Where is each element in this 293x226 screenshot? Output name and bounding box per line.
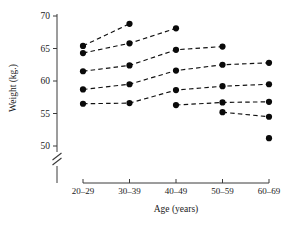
data-point [219,83,225,89]
data-point [266,114,272,120]
series-cohort-6 [173,99,272,108]
x-axis-tick-label: 20–29 [72,186,95,196]
data-point [80,86,86,92]
data-point [80,50,86,56]
series-cohort-2 [80,25,179,56]
data-series-group [80,21,272,142]
data-point [173,102,179,108]
data-point [80,101,86,107]
y-axis: 5055606570 [41,11,62,183]
x-axis-tick-label: 40–49 [165,186,188,196]
data-point [126,81,132,87]
data-point [266,81,272,87]
series-line [83,63,269,90]
data-point [266,60,272,66]
series-line [83,47,223,72]
data-point [126,21,132,27]
data-point [126,62,132,68]
x-axis: 20–2930–3940–4950–5960–69 [72,179,281,196]
y-axis-tick-label: 55 [41,109,51,119]
data-point [173,47,179,53]
series-line [223,112,270,117]
y-axis-tick-label: 60 [41,76,51,86]
chart-container: 5055606570 20–2930–3940–4950–5960–69 Wei… [0,0,293,226]
x-axis-tick-label: 50–59 [211,186,234,196]
data-point [219,109,225,115]
series-cohort-3 [80,43,226,74]
data-point [80,43,86,49]
data-point [173,25,179,31]
data-point [219,62,225,68]
data-point [126,100,132,106]
y-axis-tick-label: 50 [41,141,51,151]
y-axis-tick-label: 70 [41,11,51,21]
data-point [173,87,179,93]
y-axis-title: Weight (kg.) [8,64,19,112]
data-point [219,43,225,49]
x-axis-tick-label: 30–39 [118,186,141,196]
x-axis-title: Age (years) [154,204,199,215]
y-axis-tick-label: 65 [41,44,51,54]
series-cohort-7 [219,109,272,120]
data-point [173,68,179,74]
series-line [83,24,130,46]
data-point [80,68,86,74]
weight-by-age-scatter-line-chart: 5055606570 20–2930–3940–4950–5960–69 Wei… [0,0,293,226]
series-cohort-8 [266,135,272,141]
data-point [219,99,225,105]
data-point [126,40,132,46]
x-axis-tick-label: 60–69 [258,186,281,196]
data-point [266,99,272,105]
data-point [266,135,272,141]
